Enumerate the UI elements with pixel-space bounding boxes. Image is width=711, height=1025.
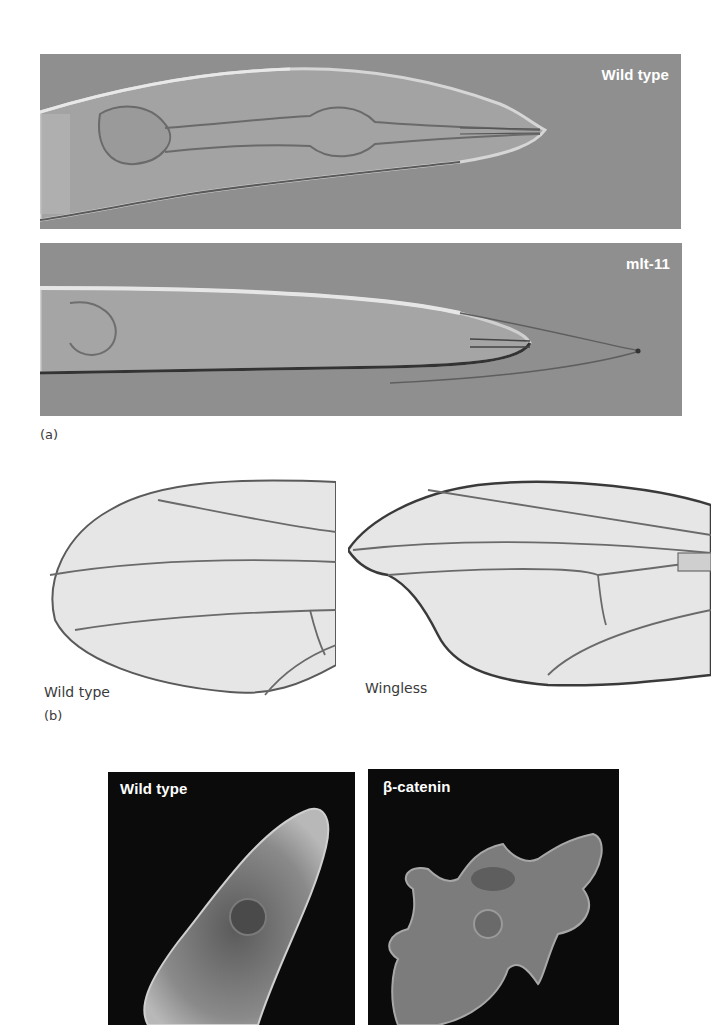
cell-beta-catenin-micrograph: β-catenin (368, 769, 619, 1025)
worm-mlt-11-micrograph: mlt-11 (40, 243, 682, 416)
wing-wingless-illustration (348, 475, 711, 695)
worm-mlt-11-illustration (40, 243, 682, 416)
worm-wild-type-illustration (40, 54, 681, 229)
cell-beta-catenin-illustration (368, 769, 619, 1025)
cell-wild-type-micrograph: Wild type (108, 772, 355, 1025)
panel-b-label: (b) (44, 708, 62, 723)
wild-type-label: Wild type (602, 66, 669, 83)
wing-wild-type-image (40, 470, 336, 700)
cell-beta-catenin-label: β-catenin (383, 778, 451, 795)
wing-wingless-caption: Wingless (365, 680, 427, 696)
cell-wild-type-illustration (108, 772, 355, 1025)
worm-wild-type-micrograph: Wild type (40, 54, 681, 229)
cell-wild-type-label: Wild type (120, 780, 187, 797)
wing-wingless-image (348, 475, 711, 695)
panel-a-label: (a) (40, 427, 58, 442)
wing-wild-type-illustration (40, 470, 336, 700)
wing-wild-type-caption: Wild type (44, 684, 110, 700)
mlt-11-label: mlt-11 (626, 255, 670, 272)
